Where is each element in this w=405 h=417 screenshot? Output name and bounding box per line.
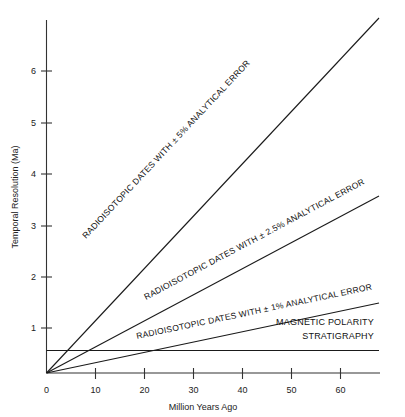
y-axis-tick-labels: 1 2 3 4 5 6 — [31, 66, 36, 333]
x-tick-label-40: 40 — [237, 385, 247, 395]
x-tick-label-60: 60 — [335, 385, 345, 395]
x-tick-label-0: 0 — [44, 385, 49, 395]
x-tick-label-10: 10 — [90, 385, 100, 395]
y-tick-label-3: 3 — [31, 221, 36, 231]
series-label-2-5-percent: RADIOISOTOPIC DATES WITH ± 2.5% ANALYTIC… — [142, 176, 366, 301]
x-tick-label-20: 20 — [139, 385, 149, 395]
chart-canvas: 1 2 3 4 5 6 0 10 20 30 40 50 60 Million … — [0, 0, 405, 417]
x-tick-label-50: 50 — [286, 385, 296, 395]
y-tick-label-2: 2 — [31, 272, 36, 282]
y-tick-label-6: 6 — [31, 66, 36, 76]
chart-figure: 1 2 3 4 5 6 0 10 20 30 40 50 60 Million … — [0, 0, 405, 417]
y-axis-title: Temporal Resolution (Ma) — [10, 145, 20, 248]
y-tick-label-4: 4 — [31, 169, 36, 179]
y-tick-label-5: 5 — [31, 118, 36, 128]
x-axis-title: Million Years Ago — [169, 402, 238, 412]
x-axis-tick-labels: 0 10 20 30 40 50 60 — [44, 385, 346, 395]
series-label-5-percent: RADIOISOTOPIC DATES WITH ± 5% ANALYTICAL… — [80, 58, 252, 241]
y-tick-label-1: 1 — [31, 323, 36, 333]
series-label-magnetic-polarity-line1: MAGNETIC POLARITY — [276, 317, 374, 327]
x-tick-label-30: 30 — [188, 385, 198, 395]
series-label-magnetic-polarity-line2: STRATIGRAPHY — [302, 331, 374, 341]
